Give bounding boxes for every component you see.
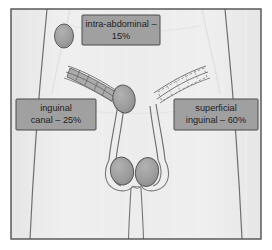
label-intra-abdominal: intra-abdominal – 15% <box>82 15 160 45</box>
label-inguinal-canal-line1: inguinal <box>40 103 72 113</box>
label-superficial-inguinal-line2: inguinal – 60% <box>186 115 246 125</box>
intra-abdominal-testis-marker <box>55 24 74 48</box>
label-inguinal-canal-line2: canal – 25% <box>31 115 82 125</box>
undescended-testis-diagram: intra-abdominal – 15% inguinal canal – 2… <box>0 0 272 250</box>
label-intra-abdominal-line2: 15% <box>112 31 130 41</box>
label-inguinal-canal: inguinal canal – 25% <box>16 99 96 130</box>
label-superficial-inguinal: superficial inguinal – 60% <box>174 99 258 130</box>
illustration-area: intra-abdominal – 15% inguinal canal – 2… <box>11 9 261 239</box>
label-intra-abdominal-line1: intra-abdominal – <box>86 19 158 29</box>
label-superficial-inguinal-line1: superficial <box>195 103 236 113</box>
